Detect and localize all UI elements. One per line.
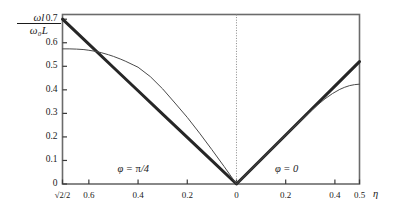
series-asymptote-linear <box>63 19 360 184</box>
y-tick-label-1: 0.1 <box>23 154 58 164</box>
y-tick-label-6: 0.6 <box>23 37 58 47</box>
data-series <box>63 19 360 184</box>
x-axis-label: η <box>373 188 378 199</box>
x-tick-label-5: 0.2 <box>266 190 306 200</box>
x-tick-label-3: 0.2 <box>167 190 207 200</box>
chart-figure: ωl ω₀L 00.10.20.30.40.50.60.7 √2/20.60.4… <box>0 0 401 216</box>
x-tick-label-2: 0.4 <box>118 190 158 200</box>
y-tick-label-3: 0.3 <box>23 107 58 117</box>
y-tick-label-2: 0.2 <box>23 131 58 141</box>
annotation-0: φ = π/4 <box>117 163 149 174</box>
y-tick-label-5: 0.5 <box>23 60 58 70</box>
plot-area <box>0 0 401 216</box>
series-dispersion-curve <box>63 49 360 184</box>
annotation-1: φ = 0 <box>275 163 298 174</box>
x-tick-label-1: 0.6 <box>69 190 109 200</box>
y-tick-label-7: 0.7 <box>23 13 58 23</box>
x-tick-label-4: 0 <box>216 190 256 200</box>
y-tick-label-4: 0.4 <box>23 84 58 94</box>
y-tick-label-0: 0 <box>23 178 58 188</box>
